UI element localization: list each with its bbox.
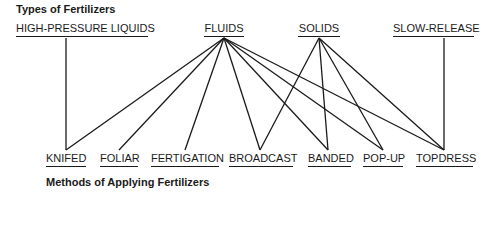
link-fluids-popup (224, 38, 383, 150)
link-solids-topdress (319, 38, 444, 150)
link-fluids-topdress (224, 38, 444, 150)
link-fluids-broadcast (224, 38, 260, 150)
method-popup: POP-UP (363, 152, 403, 167)
method-topdress: TOPDRESS (416, 152, 473, 167)
link-fluids-fertigation (185, 38, 224, 150)
link-fluids-banded (224, 38, 328, 150)
method-foliar: FOLIAR (100, 152, 138, 167)
link-solids-popup (319, 38, 383, 150)
link-fluids-knifed (66, 38, 224, 150)
link-solids-broadcast (260, 38, 319, 150)
methods-title: Methods of Applying Fertilizers (46, 176, 209, 188)
method-broadcast: BROADCAST (229, 152, 293, 167)
method-fertigation: FERTIGATION (151, 152, 219, 167)
link-fluids-foliar (119, 38, 224, 150)
link-solids-banded (319, 38, 328, 150)
method-knifed: KNIFED (46, 152, 86, 167)
method-banded: BANDED (308, 152, 351, 167)
